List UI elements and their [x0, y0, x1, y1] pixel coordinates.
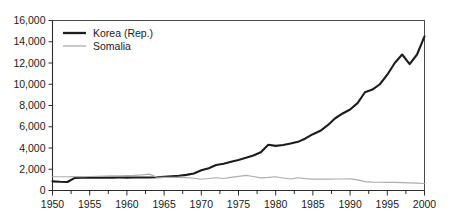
x-axis-tick-label: 1965	[152, 198, 176, 210]
x-axis-tick-label: 1985	[301, 198, 325, 210]
y-axis-tick-label: 14,000	[13, 35, 45, 47]
x-axis-tick-label: 1975	[227, 198, 251, 210]
legend-label-2: Somalia	[93, 40, 131, 52]
series-line-somalia	[53, 174, 425, 183]
line-chart: 02,0004,0006,0008,00010,00012,00014,0001…	[0, 0, 449, 224]
x-axis-tick-label: 1995	[376, 198, 400, 210]
y-axis-tick-label: 12,000	[13, 57, 45, 69]
chart-canvas: 02,0004,0006,0008,00010,00012,00014,0001…	[0, 0, 449, 224]
x-axis-tick-label: 1990	[338, 198, 362, 210]
y-axis-tick-label: 10,000	[13, 78, 45, 90]
y-axis-tick-label: 4,000	[19, 142, 45, 154]
data-series-group	[53, 36, 425, 183]
x-axis-tick-label: 1955	[78, 198, 102, 210]
x-axis-tick-label: 1980	[264, 198, 288, 210]
y-axis-tick-label: 2,000	[19, 163, 45, 175]
y-axis-tick-label: 0	[40, 184, 46, 196]
chart-legend: Korea (Rep.)Somalia	[63, 27, 153, 52]
x-axis-tick-labels: 1950195519601965197019751980198519901995…	[41, 198, 437, 210]
y-axis-tick-labels: 02,0004,0006,0008,00010,00012,00014,0001…	[13, 14, 45, 196]
y-axis-tick-label: 8,000	[19, 99, 45, 111]
x-axis-tick-label: 1960	[115, 198, 139, 210]
y-axis-tick-label: 16,000	[13, 14, 45, 26]
x-axis-tick-label: 2000	[413, 198, 437, 210]
legend-label-1: Korea (Rep.)	[93, 27, 153, 39]
y-axis-tick-label: 6,000	[19, 120, 45, 132]
x-axis-tick-label: 1970	[190, 198, 214, 210]
series-line-korea-rep	[53, 36, 425, 182]
y-axis-ticks	[49, 21, 53, 191]
x-axis-tick-label: 1950	[41, 198, 65, 210]
